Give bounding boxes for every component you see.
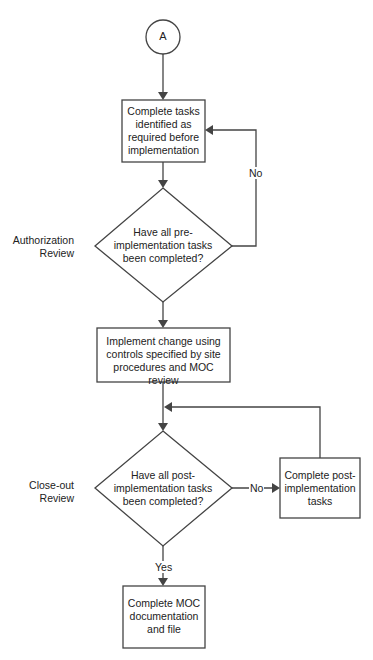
post-decision-no-label: No [249,482,264,494]
pre-decision-no-label: No [248,167,263,179]
authorization-review-label: Authorization Review [0,234,74,260]
post-tasks-label: Complete post- implementation tasks [280,469,360,508]
arrowhead-icon [158,423,168,431]
finish-label: Complete MOC documentation and file [123,597,205,636]
start-connector-label: A [153,30,173,43]
post-decision-yes-label: Yes [154,561,173,573]
edge-post-tasks-loop-back [172,407,320,458]
pre-tasks-label: Complete tasks identified as required be… [122,105,205,157]
flowchart-canvas [0,0,373,660]
arrowhead-icon [158,578,168,586]
edge-pre-decision-no-loop [213,130,256,246]
arrowhead-icon [205,125,213,135]
closeout-review-label: Close-out Review [0,479,74,505]
arrowhead-icon [272,483,280,493]
arrowhead-icon [158,180,168,188]
post-decision-label: Have all post- implementation tasks been… [108,469,218,508]
arrowhead-icon [158,320,168,328]
arrowhead-icon [158,92,168,100]
arrowhead-icon [164,402,172,412]
pre-decision-label: Have all pre- implementation tasks been … [108,226,218,265]
implement-label: Implement change using controls specifie… [97,335,230,387]
